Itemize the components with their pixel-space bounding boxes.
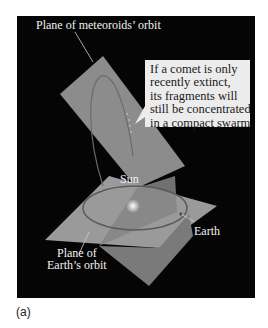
sun-icon (126, 199, 140, 213)
label-earth: Earth (194, 225, 220, 238)
label-sun: Sun (120, 173, 139, 186)
orbit-planes-illustration (17, 16, 255, 298)
callout-line: recently extinct, (150, 76, 250, 89)
callout-line: If a comet is only (150, 63, 250, 76)
label-meteoroid-plane: Plane of meteoroids’ orbit (36, 19, 161, 32)
diagram-panel: Plane of meteoroids’ orbit Sun Earth Pla… (17, 16, 255, 298)
callout-box: If a comet is only recently extinct, its… (145, 60, 250, 127)
callout-line: its fragments will (150, 90, 250, 103)
figure-caption: (a) (16, 305, 31, 319)
callout-line: in a compact swarm. (150, 117, 250, 130)
label-earth-plane-line2: Earth’s orbit (47, 259, 107, 272)
callout-line: still be concentrated (150, 103, 250, 116)
